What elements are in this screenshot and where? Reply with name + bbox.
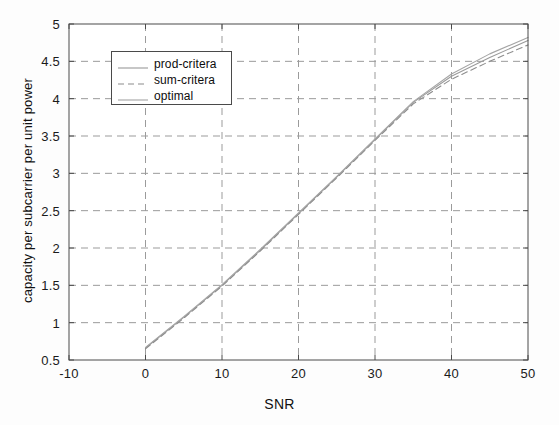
legend-entry: optimal	[112, 88, 231, 103]
x-tick-label: 50	[521, 366, 536, 381]
legend-label: prod-critera	[154, 57, 217, 71]
chart-legend: prod-criterasum-criteraoptimal	[111, 51, 232, 105]
legend-label: sum-critera	[154, 73, 215, 87]
y-axis-title: capacity per subcarrier per unit power	[21, 77, 36, 302]
legend-line-sample	[118, 75, 148, 85]
legend-label: optimal	[154, 89, 193, 103]
plot-area	[0, 0, 559, 425]
x-tick-label: 20	[291, 366, 306, 381]
x-axis-title: SNR	[0, 396, 559, 412]
x-tick-label: 0	[142, 366, 149, 381]
legend-line-sample	[118, 91, 148, 101]
x-tick-label: 40	[444, 366, 459, 381]
legend-line-sample	[118, 59, 148, 69]
chart-screenshot: 0.511.522.533.544.55 -1001020304050 capa…	[0, 0, 559, 425]
figure-canvas: 0.511.522.533.544.55 -1001020304050 capa…	[0, 0, 559, 425]
legend-entry: prod-critera	[112, 56, 231, 71]
x-tick-label: 30	[368, 366, 383, 381]
x-tick-label: 10	[215, 366, 230, 381]
x-tick-label: -10	[59, 366, 78, 381]
legend-entry: sum-critera	[112, 72, 231, 87]
y-axis-title-wrap: capacity per subcarrier per unit power	[16, 0, 40, 380]
